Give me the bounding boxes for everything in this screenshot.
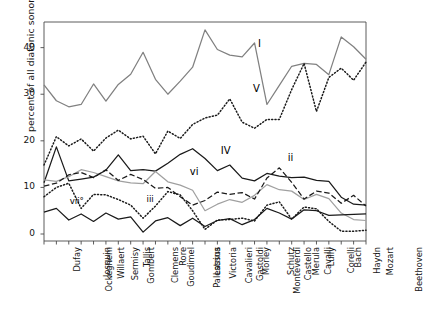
y-tick-label: 0 bbox=[13, 228, 35, 238]
series-label-I: I bbox=[258, 38, 261, 49]
x-tick-label-mozart: Mozart bbox=[385, 247, 395, 275]
y-tick-label: 30 bbox=[13, 88, 35, 98]
x-tick-label-sermisy: Sermisy bbox=[130, 247, 140, 280]
x-tick-label-lully: Lully bbox=[327, 247, 337, 266]
x-tick-label-haydn: Haydn bbox=[371, 247, 381, 274]
series-line-ii bbox=[44, 168, 366, 206]
x-tick-label-tallis: Tallis bbox=[142, 247, 152, 267]
series-line-iii bbox=[44, 183, 366, 231]
x-tick-label-beethoven: Beethoven bbox=[414, 247, 424, 292]
series-label-vi: vi bbox=[190, 166, 199, 177]
x-tick-label-cavalieri: Cavalieri bbox=[245, 247, 255, 283]
x-tick-label-bach: Bach bbox=[353, 247, 363, 268]
axes-frame bbox=[44, 22, 366, 241]
y-tick-label: 10 bbox=[13, 181, 35, 191]
x-tick-label-merula: Merula bbox=[311, 247, 321, 275]
page-footer-bleed bbox=[0, 313, 377, 319]
y-tick-label: 20 bbox=[13, 135, 35, 145]
x-tick-label-lassus: Lassus bbox=[211, 247, 221, 275]
x-tick-label-josquin: Josquin bbox=[102, 247, 112, 277]
x-tick-label-willaert: Willaert bbox=[116, 247, 126, 279]
series-label-viidim: vii° bbox=[70, 196, 84, 206]
x-tick-label-victoria: Victoria bbox=[227, 247, 237, 279]
series-label-IV: IV bbox=[221, 145, 231, 156]
x-tick-label-rore: Rore bbox=[178, 247, 188, 266]
series-label-iii: iii bbox=[147, 194, 154, 204]
x-tick-label-dufay: Dufay bbox=[72, 247, 82, 272]
x-tick-label-morley: Morley bbox=[261, 247, 271, 275]
y-tick-label: 40 bbox=[13, 42, 35, 52]
series-label-V: V bbox=[253, 83, 260, 94]
series-label-ii: ii bbox=[288, 152, 294, 163]
x-tick-label-schutz: Schutz bbox=[286, 247, 296, 275]
series-line-I bbox=[44, 30, 366, 107]
series-line-V bbox=[44, 62, 366, 165]
